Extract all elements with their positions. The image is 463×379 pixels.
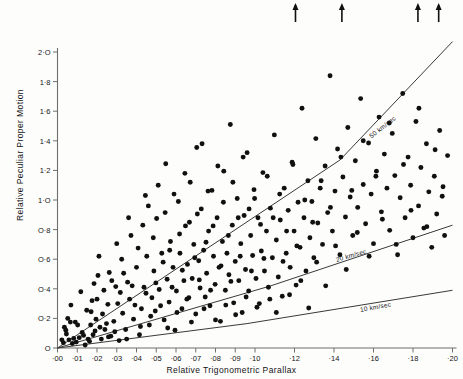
data-point — [153, 309, 158, 314]
x-tick-label: ·20 — [447, 354, 458, 363]
data-point — [149, 295, 154, 300]
data-point — [424, 141, 429, 146]
data-point — [230, 180, 235, 185]
data-point — [228, 122, 233, 127]
data-point — [258, 222, 263, 227]
data-point — [61, 340, 66, 345]
x-tick-label: ·09 — [230, 354, 241, 363]
data-point — [218, 319, 223, 324]
data-point — [211, 254, 216, 259]
data-point — [274, 238, 279, 243]
data-point — [204, 271, 209, 276]
data-point — [261, 256, 266, 261]
data-point — [114, 241, 119, 246]
off-scale-arrow-head — [415, 3, 421, 10]
data-point — [197, 277, 202, 282]
data-point — [130, 283, 135, 288]
data-point — [223, 288, 228, 293]
data-point — [88, 323, 93, 328]
data-point — [95, 297, 100, 302]
data-point — [182, 171, 187, 176]
scatter-plot-figure: ·00·01·02·03·04·05·06·07·08·09·10·12·14·… — [0, 0, 463, 379]
data-point — [318, 186, 323, 191]
data-point — [167, 300, 172, 305]
data-point — [242, 213, 247, 218]
data-point — [277, 192, 282, 197]
data-point — [144, 254, 149, 259]
data-point — [231, 300, 236, 305]
data-point — [132, 303, 137, 308]
data-point — [394, 242, 399, 247]
data-point — [271, 215, 276, 220]
data-point — [282, 186, 287, 191]
data-point — [219, 263, 224, 268]
data-point — [284, 229, 289, 234]
x-tick-label: ·18 — [408, 354, 419, 363]
data-point — [240, 310, 245, 315]
data-point — [409, 208, 414, 213]
data-point — [343, 215, 348, 220]
data-point — [99, 337, 104, 342]
x-tick-label: ·00 — [52, 354, 63, 363]
data-point — [220, 239, 225, 244]
y-tick-label: 2·O — [38, 48, 51, 57]
y-tick-label: 1·2 — [40, 166, 51, 175]
y-tick-label: 1·6 — [40, 107, 51, 116]
plot-canvas — [0, 0, 463, 379]
data-point — [287, 292, 292, 297]
data-point — [185, 262, 190, 267]
data-point — [181, 278, 186, 283]
data-point — [177, 232, 182, 237]
data-point — [84, 308, 89, 313]
x-tick-label: ·05 — [151, 354, 162, 363]
data-point — [398, 195, 403, 200]
data-point — [180, 268, 185, 273]
x-tick-label: ·07 — [190, 354, 201, 363]
data-point — [165, 277, 170, 282]
data-point — [211, 223, 216, 228]
data-point — [379, 209, 384, 214]
x-tick-label: ·02 — [92, 354, 103, 363]
data-point — [168, 239, 173, 244]
data-point — [267, 297, 272, 302]
data-point — [248, 233, 253, 238]
data-point — [252, 196, 257, 201]
x-tick-label: ·03 — [111, 354, 122, 363]
data-point — [280, 294, 285, 299]
data-point — [226, 272, 231, 277]
data-point — [225, 251, 230, 256]
data-point — [156, 183, 161, 188]
top-arrow-markers-group — [292, 3, 441, 22]
data-point — [250, 253, 255, 258]
data-point — [228, 279, 233, 284]
data-point — [159, 251, 164, 256]
data-point — [139, 306, 144, 311]
data-point — [147, 323, 152, 328]
data-point — [355, 230, 360, 235]
data-point — [265, 174, 270, 179]
data-point — [440, 194, 445, 199]
data-point — [189, 320, 194, 325]
data-point — [260, 170, 265, 175]
data-point — [129, 233, 134, 238]
data-point — [320, 242, 325, 247]
data-point — [179, 306, 184, 311]
data-point — [126, 215, 131, 220]
y-tick-label: O·6 — [38, 255, 51, 264]
data-point — [323, 283, 328, 288]
data-point — [390, 131, 395, 136]
off-scale-arrow-head — [339, 3, 345, 10]
x-tick-label: ·04 — [131, 354, 142, 363]
data-point — [403, 215, 408, 220]
data-point — [340, 175, 345, 180]
data-point — [106, 334, 111, 339]
data-point — [215, 215, 220, 220]
data-point — [294, 283, 299, 288]
data-point — [65, 316, 70, 321]
y-axis-title: Relative Peculiar Proper Motion — [15, 80, 25, 230]
data-point — [121, 271, 126, 276]
data-point — [377, 115, 382, 120]
data-point — [119, 257, 124, 262]
data-point — [97, 254, 102, 259]
data-point — [215, 164, 220, 169]
